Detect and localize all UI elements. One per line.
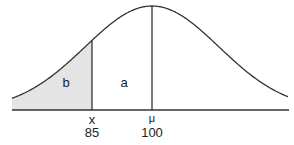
mu-value-label: 100 (141, 126, 163, 139)
normal-curve-figure (0, 0, 294, 145)
region-label-b: b (62, 76, 69, 89)
region-label-a: a (120, 76, 127, 89)
mu-symbol-label: μ (149, 113, 155, 124)
x-value-label: 85 (85, 126, 99, 139)
